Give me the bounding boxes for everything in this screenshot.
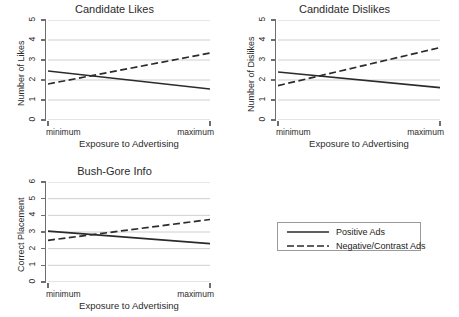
x-tick-label: maximum [407,127,444,137]
plot-svg [48,20,210,120]
legend-key-dashed-line [286,241,330,251]
y-axis-title: Number of Dislikes [246,36,256,112]
y-tick-label: 3 [257,54,267,64]
x-tick-mark [277,121,278,126]
chart-panel-candidate-likes: Candidate Likes Number of Likes 012345 m… [0,0,229,158]
x-tick-label: minimum [46,127,80,137]
gridlines [48,20,210,120]
plot-area [48,20,210,120]
y-tick-label: 1 [27,94,37,104]
legend-key-solid-line [286,227,330,237]
y-tick-label: 3 [27,226,37,236]
data-lines [278,48,440,88]
y-tick-label: 3 [27,54,37,64]
data-lines [48,53,210,89]
x-tick-mark [439,121,440,126]
y-tick-label: 5 [257,14,267,24]
x-axis-title: Exposure to Advertising [48,300,210,311]
y-tick-label: 6 [27,176,37,186]
y-tick-label: 1 [257,94,267,104]
legend-item: Positive Ads [278,225,420,239]
y-tick-label: 2 [27,74,37,84]
y-tick-label: 4 [257,34,267,44]
plot-svg [48,182,210,282]
y-tick-label: 4 [27,209,37,219]
plot-area [278,20,440,120]
legend: Positive Ads Negative/Contrast Ads [277,222,421,251]
legend-label: Negative/Contrast Ads [336,241,426,251]
y-axis-title: Correct Placement [16,197,26,272]
gridlines [48,182,210,282]
legend-label: Positive Ads [336,227,385,237]
plot-svg [278,20,440,120]
y-tick-label: 0 [27,276,37,286]
y-tick-label: 2 [27,243,37,253]
x-tick-label: maximum [177,127,214,137]
x-tick-label: minimum [276,127,310,137]
y-tick-label: 1 [27,259,37,269]
x-tick-mark [209,121,210,126]
x-tick-mark [47,121,48,126]
x-axis-title: Exposure to Advertising [278,138,440,149]
plot-area [48,182,210,282]
x-tick-label: minimum [46,289,80,299]
y-tick-label: 2 [257,74,267,84]
legend-item: Negative/Contrast Ads [278,239,420,253]
chart-panel-candidate-dislikes: Candidate Dislikes Number of Dislikes 01… [230,0,459,158]
y-axis-spine [45,182,46,282]
y-axis-spine [275,20,276,120]
gridlines [278,20,440,120]
x-tick-mark [47,283,48,288]
y-tick-label: 0 [27,114,37,124]
x-axis-title: Exposure to Advertising [48,138,210,149]
y-tick-label: 4 [27,34,37,44]
x-tick-label: maximum [177,289,214,299]
y-tick-label: 5 [27,14,37,24]
y-tick-label: 0 [257,114,267,124]
chart-panel-bush-gore-info: Bush-Gore Info Correct Placement 0123456… [0,162,229,317]
y-axis-title: Number of Likes [16,40,26,106]
y-axis-spine [45,20,46,120]
x-tick-mark [209,283,210,288]
y-tick-label: 5 [27,193,37,203]
